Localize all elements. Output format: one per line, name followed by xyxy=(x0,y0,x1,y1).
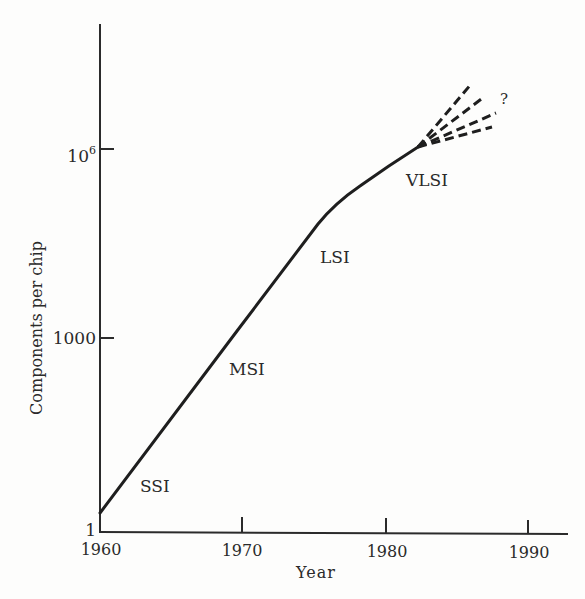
extrapolation-fan xyxy=(418,83,496,147)
x-axis-title: Year xyxy=(295,563,336,582)
x-tick-label-1990: 1990 xyxy=(509,543,550,562)
extrapolation-line-1 xyxy=(418,83,472,147)
x-axis xyxy=(99,532,568,534)
growth-curve xyxy=(100,147,418,513)
y-tick-label-1000: 1000 xyxy=(53,328,96,348)
y-tick-label-1: 1 xyxy=(85,520,96,540)
y-axis-title: Components per chip xyxy=(27,241,46,415)
chart-figure: 106 1000 1 1960 1970 1980 1990 Year Comp… xyxy=(0,0,585,599)
y-tick-label-1e6: 106 xyxy=(67,144,96,166)
x-tick-label-1970: 1970 xyxy=(222,541,263,560)
chart-canvas: 106 1000 1 1960 1970 1980 1990 Year Comp… xyxy=(0,0,585,599)
era-label-msi: MSI xyxy=(229,359,265,379)
era-label-lsi: LSI xyxy=(320,247,350,267)
x-tick-label-1960: 1960 xyxy=(81,540,122,559)
x-tick-label-1980: 1980 xyxy=(367,542,408,561)
era-label-ssi: SSI xyxy=(140,476,170,496)
era-label-vlsi: VLSI xyxy=(405,170,448,190)
question-mark-annotation: ? xyxy=(500,90,508,108)
